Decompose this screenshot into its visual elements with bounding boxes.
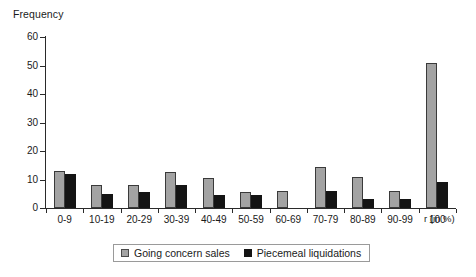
bars-layer <box>46 37 456 208</box>
x-tick-label: 90-99 <box>381 214 418 225</box>
x-tick-mark <box>158 209 159 213</box>
bar <box>128 185 139 208</box>
x-tick-mark <box>419 209 420 213</box>
bar <box>277 191 288 208</box>
legend-entry: Going concern sales <box>121 247 230 259</box>
x-tick-label: 30-39 <box>158 214 195 225</box>
x-tick-mark <box>46 209 47 213</box>
bar-chart: Frequency 0102030405060 0-910-1920-2930-… <box>0 0 476 277</box>
x-tick-mark <box>307 209 308 213</box>
bar <box>139 192 150 208</box>
bar <box>437 182 448 208</box>
bar <box>352 177 363 208</box>
legend-swatch-icon <box>121 249 129 257</box>
bar <box>91 185 102 208</box>
legend-swatch-icon <box>244 249 252 257</box>
bar <box>176 185 187 208</box>
chart-legend: Going concern salesPiecemeal liquidation… <box>113 244 370 262</box>
y-tick-label: 50 <box>14 60 38 71</box>
bar <box>326 191 337 208</box>
y-tick-label: 10 <box>14 174 38 185</box>
legend-entry: Piecemeal liquidations <box>244 247 361 259</box>
y-tick-label: 60 <box>14 31 38 42</box>
x-tick-label: 50-59 <box>232 214 269 225</box>
legend-label: Piecemeal liquidations <box>257 247 361 259</box>
bar <box>240 192 251 208</box>
bar <box>251 195 262 208</box>
x-tick-label: 20-29 <box>121 214 158 225</box>
x-tick-label: 60-69 <box>270 214 307 225</box>
x-tick-label: 10-19 <box>83 214 120 225</box>
bar <box>363 199 374 208</box>
bar <box>389 191 400 208</box>
bar <box>54 171 65 208</box>
x-tick-mark <box>456 209 457 213</box>
x-tick-label: 70-79 <box>307 214 344 225</box>
x-tick-mark <box>195 209 196 213</box>
x-tick-mark <box>270 209 271 213</box>
bar <box>165 172 176 208</box>
legend-label: Going concern sales <box>134 247 230 259</box>
x-tick-mark <box>83 209 84 213</box>
bar <box>65 174 76 208</box>
x-axis-line <box>45 208 456 209</box>
x-tick-label: 40-49 <box>195 214 232 225</box>
x-tick-mark <box>344 209 345 213</box>
x-tick-mark <box>381 209 382 213</box>
y-tick-label: 20 <box>14 145 38 156</box>
x-tick-mark <box>232 209 233 213</box>
bar <box>426 63 437 208</box>
x-axis-title: r (in %) <box>424 213 455 224</box>
x-tick-label: 0-9 <box>46 214 83 225</box>
y-tick-label: 40 <box>14 88 38 99</box>
bar <box>315 167 326 208</box>
y-tick-label: 0 <box>14 202 38 213</box>
y-tick-label: 30 <box>14 117 38 128</box>
bar <box>203 178 214 208</box>
bar <box>214 195 225 208</box>
bar <box>102 194 113 208</box>
x-tick-mark <box>121 209 122 213</box>
bar <box>400 199 411 208</box>
x-tick-label: 80-89 <box>344 214 381 225</box>
y-axis-title: Frequency <box>13 8 64 20</box>
